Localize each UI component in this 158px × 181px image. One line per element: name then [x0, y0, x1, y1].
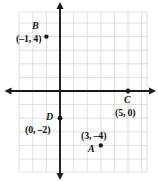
- coordinate-plane-figure: B (–1, 4) C (5, 0) D (0, –2) (3, –4) A: [0, 0, 158, 181]
- point-c-name-label: C: [124, 95, 131, 105]
- coordinate-plane-svg: [0, 0, 158, 181]
- point-c-coords-label: (5, 0): [115, 108, 135, 118]
- point-c-marker: [126, 89, 131, 94]
- y-axis-down-arrow: [57, 173, 64, 180]
- x-axis: [5, 88, 157, 95]
- point-a-coords-label: (3, –4): [81, 131, 106, 141]
- y-axis-up-arrow: [57, 2, 64, 9]
- x-axis-right-arrow: [149, 88, 156, 95]
- point-a-marker: [99, 143, 103, 147]
- point-d-coords-label: (0, –2): [25, 125, 50, 135]
- point-d-name-label: D: [46, 112, 53, 122]
- x-axis-left-arrow: [5, 88, 12, 95]
- point-b-marker: [44, 34, 48, 38]
- point-b-name-label: B: [32, 21, 39, 31]
- point-d-marker: [58, 116, 63, 121]
- point-a-name-label: A: [88, 144, 95, 154]
- point-b-coords-label: (–1, 4): [16, 34, 41, 44]
